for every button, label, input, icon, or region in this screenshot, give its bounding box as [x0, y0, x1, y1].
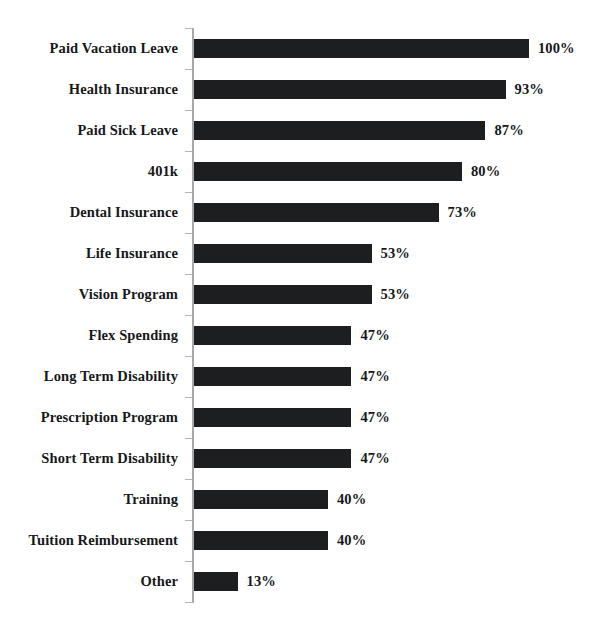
- bar-row[interactable]: Flex Spending47%: [0, 315, 607, 356]
- category-label: Long Term Disability: [0, 356, 178, 397]
- bar-row[interactable]: 401k80%: [0, 151, 607, 192]
- category-label: Flex Spending: [0, 315, 178, 356]
- bar[interactable]: [194, 162, 462, 181]
- bar-row[interactable]: Life Insurance53%: [0, 233, 607, 274]
- bar-row[interactable]: Health Insurance93%: [0, 69, 607, 110]
- bar-value-label: 93%: [515, 69, 544, 110]
- bar-row[interactable]: Vision Program53%: [0, 274, 607, 315]
- category-label: Dental Insurance: [0, 192, 178, 233]
- bar[interactable]: [194, 490, 328, 509]
- bar-value-label: 47%: [360, 438, 389, 479]
- bar-chart: Paid Vacation Leave100%Health Insurance9…: [0, 0, 607, 636]
- bar[interactable]: [194, 121, 485, 140]
- chart-title: [0, 0, 607, 6]
- category-label: Paid Vacation Leave: [0, 28, 178, 69]
- bar-value-label: 47%: [360, 315, 389, 356]
- bar-row[interactable]: Long Term Disability47%: [0, 356, 607, 397]
- bar-row[interactable]: Paid Vacation Leave100%: [0, 28, 607, 69]
- category-label: Vision Program: [0, 274, 178, 315]
- bar[interactable]: [194, 285, 372, 304]
- category-label: Other: [0, 561, 178, 602]
- bar-row[interactable]: Dental Insurance73%: [0, 192, 607, 233]
- bar[interactable]: [194, 244, 372, 263]
- bar[interactable]: [194, 531, 328, 550]
- bar-value-label: 47%: [360, 356, 389, 397]
- category-label: Life Insurance: [0, 233, 178, 274]
- bar-row[interactable]: Prescription Program47%: [0, 397, 607, 438]
- bar[interactable]: [194, 449, 351, 468]
- bar-row[interactable]: Training40%: [0, 479, 607, 520]
- bar-value-label: 40%: [337, 520, 366, 561]
- category-label: Health Insurance: [0, 69, 178, 110]
- bar[interactable]: [194, 367, 351, 386]
- bar-row[interactable]: Tuition Reimbursement40%: [0, 520, 607, 561]
- bar-value-label: 47%: [360, 397, 389, 438]
- category-label: Training: [0, 479, 178, 520]
- bar-value-label: 13%: [247, 561, 276, 602]
- bar-value-label: 40%: [337, 479, 366, 520]
- category-label: Paid Sick Leave: [0, 110, 178, 151]
- bar-value-label: 73%: [448, 192, 477, 233]
- bar[interactable]: [194, 39, 529, 58]
- bar-value-label: 53%: [381, 274, 410, 315]
- bar-value-label: 87%: [494, 110, 523, 151]
- category-label: Short Term Disability: [0, 438, 178, 479]
- category-label: 401k: [0, 151, 178, 192]
- bar-row[interactable]: Paid Sick Leave87%: [0, 110, 607, 151]
- category-label: Tuition Reimbursement: [0, 520, 178, 561]
- bar-value-label: 80%: [471, 151, 500, 192]
- bar[interactable]: [194, 408, 351, 427]
- bar-value-label: 53%: [381, 233, 410, 274]
- category-label: Prescription Program: [0, 397, 178, 438]
- plot-area: Paid Vacation Leave100%Health Insurance9…: [0, 28, 607, 612]
- bar[interactable]: [194, 572, 238, 591]
- bar-value-label: 100%: [538, 28, 575, 69]
- bar[interactable]: [194, 80, 506, 99]
- bar[interactable]: [194, 203, 439, 222]
- bar[interactable]: [194, 326, 351, 345]
- bar-row[interactable]: Short Term Disability47%: [0, 438, 607, 479]
- bar-row[interactable]: Other13%: [0, 561, 607, 602]
- axis-tick: [185, 602, 193, 603]
